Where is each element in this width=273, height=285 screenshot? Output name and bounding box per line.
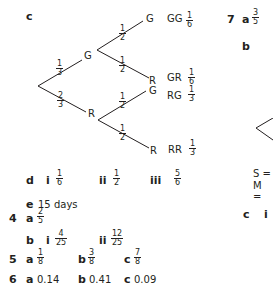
q7-a-label: a bbox=[242, 13, 249, 26]
q7-number: 7 bbox=[227, 13, 235, 26]
result-GG-prob: 16 bbox=[186, 12, 193, 29]
branch-prob-G1: 13 bbox=[56, 60, 63, 77]
part-d-i-answer: 16 bbox=[56, 170, 63, 187]
node-RG: G bbox=[149, 85, 157, 96]
q6-c-label: c bbox=[124, 273, 131, 285]
q6-c-answer: 0.09 bbox=[134, 274, 156, 285]
part-e-label: e bbox=[26, 198, 33, 211]
node-RR: R bbox=[150, 145, 157, 156]
q5-b-label: b bbox=[78, 253, 86, 266]
q5-b-answer: 38 bbox=[88, 249, 95, 266]
q4-b-label: b bbox=[26, 234, 34, 247]
q7-c-i-label: i bbox=[264, 208, 268, 221]
branch-prob-RG: 12 bbox=[119, 93, 126, 110]
q7-a-answer: 35 bbox=[252, 9, 259, 26]
result-RR-prob: 13 bbox=[189, 140, 196, 157]
branch-prob-RR: 12 bbox=[119, 125, 126, 142]
q4-b-i-label: i bbox=[46, 234, 50, 247]
node-G: G bbox=[84, 50, 92, 61]
part-d-label: d bbox=[26, 174, 34, 187]
q7-key-m: M = bbox=[253, 180, 273, 202]
part-d-iii-label: iii bbox=[150, 174, 161, 187]
part-d-i-label: i bbox=[46, 174, 50, 187]
result-GR-prob: 16 bbox=[188, 69, 195, 86]
q4-a-label: a bbox=[26, 212, 33, 225]
result-RG-prob: 13 bbox=[188, 86, 195, 103]
q6-number: 6 bbox=[9, 273, 17, 285]
q5-a-answer: 18 bbox=[37, 249, 44, 266]
q4-b-ii-label: ii bbox=[99, 234, 107, 247]
part-d-ii-label: ii bbox=[99, 174, 107, 187]
q6-b-answer: 0.41 bbox=[89, 274, 111, 285]
part-d-iii-answer: 56 bbox=[174, 170, 181, 187]
node-GG: G bbox=[146, 13, 154, 24]
q4-a-answer: 25 bbox=[37, 208, 44, 225]
part-d-ii-answer: 12 bbox=[113, 170, 120, 187]
q7-b-label: b bbox=[242, 40, 250, 53]
q6-a-label: a bbox=[26, 273, 33, 285]
q4-b-i-answer: 425 bbox=[55, 230, 67, 247]
tree-diagram bbox=[0, 0, 273, 285]
q5-number: 5 bbox=[9, 253, 17, 266]
branch-prob-GG: 12 bbox=[119, 25, 126, 42]
q4-b-ii-answer: 1225 bbox=[111, 230, 123, 247]
q5-a-label: a bbox=[26, 253, 33, 266]
result-RR-label: RR bbox=[168, 144, 182, 155]
q4-number: 4 bbox=[9, 212, 17, 225]
result-GG-label: GG bbox=[167, 13, 183, 24]
branch-prob-GR: 12 bbox=[119, 57, 126, 74]
q7-tree-diagram bbox=[255, 118, 273, 142]
q5-c-label: c bbox=[124, 253, 131, 266]
node-R: R bbox=[88, 108, 95, 119]
branch-prob-R1: 23 bbox=[57, 92, 64, 109]
q6-b-label: b bbox=[78, 273, 86, 285]
q6-a-answer: 0.14 bbox=[37, 274, 59, 285]
result-GR-label: GR bbox=[167, 72, 182, 83]
result-RG-label: RG bbox=[167, 90, 182, 101]
q7-c-label: c bbox=[243, 208, 250, 221]
q5-c-answer: 78 bbox=[134, 249, 141, 266]
q7-key-s: S = bbox=[253, 168, 271, 179]
